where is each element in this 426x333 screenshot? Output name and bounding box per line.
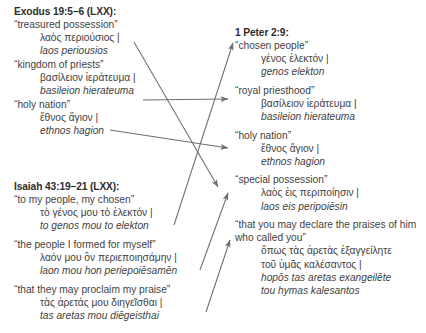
exodus-entry-3-english: “holy nation”	[14, 98, 204, 111]
isaiah-entry-1-english: “to my people, my chosen”	[14, 193, 214, 206]
exodus-entry-3: “holy nation” ἔθνος ἅγιον | ethnos hagio…	[14, 98, 204, 138]
exodus-entry-2-greek: βασίλειον ἱεράτευμα |	[14, 71, 204, 84]
peter-entry-2-greek: βασίλειον ἱεράτευμα |	[235, 97, 425, 110]
isaiah-entry-2: “the people I formed for myself” λαόν μο…	[14, 238, 214, 278]
exodus-entry-1-english: “treasured possession”	[14, 18, 204, 31]
isaiah-entry-3: “that they may proclaim my praise” τὰς ἀ…	[14, 283, 214, 323]
isaiah-entry-1-greek: τὸ γένος μου τὸ ἐλεκτόν |	[14, 206, 214, 219]
peter-entry-5-translit-line1: hopōs tas aretas exangeilēte	[235, 271, 425, 284]
peter-entry-3-greek: ἔθνος ἅγιον |	[235, 142, 425, 155]
isaiah-entry-2-greek: λαόν μου ὃν περιεποιησάμην |	[14, 251, 214, 264]
peter-entry-3: “holy nation” ἔθνος ἅγιον | ethnos hagio…	[235, 129, 425, 169]
isaiah-entry-2-translit: laon mou hon periepoiēsamēn	[14, 264, 214, 277]
peter-entry-2-translit: basileion hierateuma	[235, 110, 425, 123]
comparison-diagram: Exodus 19:5–6 (LXX): “treasured possessi…	[0, 0, 426, 333]
peter-entry-2-english: “royal priesthood”	[235, 84, 425, 97]
peter-entry-4-greek: λαὸς ἐις περιποίησιν |	[235, 186, 425, 199]
isaiah-block: Isaiah 43:19–21 (LXX): “to my people, my…	[14, 180, 214, 322]
first-peter-block: 1 Peter 2:9: “chosen people” γένος ἐλεκτ…	[235, 26, 425, 298]
exodus-entry-1-greek: λαὸς περιούσιος |	[14, 31, 204, 44]
isaiah-heading: Isaiah 43:19–21 (LXX):	[14, 180, 214, 193]
isaiah-entry-3-english: “that they may proclaim my praise”	[14, 283, 214, 296]
exodus-block: Exodus 19:5–6 (LXX): “treasured possessi…	[14, 5, 204, 137]
peter-entry-5-greek-line1: ὅπως τὰς ἀρετὰς ἐξαγγείλητε	[235, 244, 425, 257]
first-peter-heading: 1 Peter 2:9:	[235, 26, 425, 39]
peter-entry-5-english: “that you may declare the praises of him…	[235, 218, 417, 244]
peter-entry-1-greek: γένος ἐλεκτόν |	[235, 52, 425, 65]
peter-entry-5: “that you may declare the praises of him…	[235, 218, 425, 298]
isaiah-entry-2-english: “the people I formed for myself”	[14, 238, 214, 251]
peter-entry-2: “royal priesthood” βασίλειον ἱεράτευμα |…	[235, 84, 425, 124]
peter-entry-4: “special possession” λαὸς ἐις περιποίησι…	[235, 173, 425, 213]
exodus-entry-1-translit: laos periousios	[14, 44, 204, 57]
peter-entry-5-translit-line2: tou hymas kalesantos	[235, 284, 425, 297]
exodus-entry-3-translit: ethnos hagion	[14, 124, 204, 137]
peter-entry-3-translit: ethnos hagion	[235, 155, 425, 168]
peter-entry-3-english: “holy nation”	[235, 129, 425, 142]
peter-entry-5-greek-line2: τοῦ ὑμᾶς καλέσαντος |	[235, 258, 425, 271]
peter-entry-1: “chosen people” γένος ἐλεκτόν | genos el…	[235, 39, 425, 79]
isaiah-entry-3-translit: tas aretas mou diēgeisthai	[14, 309, 214, 322]
exodus-entry-3-greek: ἔθνος ἅγιον |	[14, 111, 204, 124]
isaiah-entry-3-greek: τὰς ἀρετάς μου διηγεῖσθαι |	[14, 296, 214, 309]
exodus-entry-2: “kingdom of priests” βασίλειον ἱεράτευμα…	[14, 58, 204, 98]
exodus-entry-2-translit: basileion hierateuma	[14, 84, 204, 97]
exodus-entry-2-english: “kingdom of priests”	[14, 58, 204, 71]
exodus-heading: Exodus 19:5–6 (LXX):	[14, 5, 204, 18]
peter-entry-4-english: “special possession”	[235, 173, 425, 186]
exodus-entry-1: “treasured possession” λαὸς περιούσιος |…	[14, 18, 204, 58]
peter-entry-1-translit: genos elekton	[235, 65, 425, 78]
peter-entry-1-english: “chosen people”	[235, 39, 425, 52]
peter-entry-4-translit: laos eis peripoiēsin	[235, 200, 425, 213]
isaiah-entry-1: “to my people, my chosen” τὸ γένος μου τ…	[14, 193, 214, 233]
isaiah-entry-1-translit: to genos mou to elekton	[14, 219, 214, 232]
